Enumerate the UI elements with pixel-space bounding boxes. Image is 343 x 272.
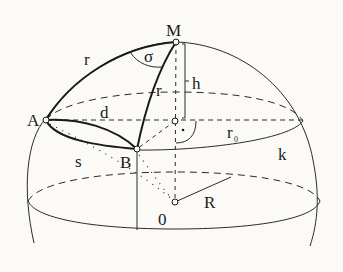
label-d: d [100,103,109,122]
circle-k-back [46,92,303,121]
right-angle-dot [182,129,185,132]
label-r0-sub: 0 [234,135,238,144]
label-O: 0 [158,210,167,229]
label-s: s [75,152,82,171]
sphere-diagram: M A B 0 r r σ h d s r 0 k R [0,0,343,272]
point-B [134,146,140,152]
dotted-chord-A [50,124,172,199]
label-r-MA: r [84,50,90,69]
arc-AB-upper [46,120,137,149]
dotted-chord-B [139,155,172,199]
label-A: A [27,111,40,130]
right-angle-arc [176,121,196,143]
label-r0: r [227,123,233,142]
label-M: M [166,21,181,40]
label-h: h [192,74,201,93]
point-A [43,117,49,123]
radius-R [175,177,231,202]
label-k: k [278,145,287,164]
label-r-MB: r [156,81,162,100]
h-bracket [182,44,185,118]
equator-back [28,172,320,201]
label-R: R [204,193,216,212]
point-O [172,199,178,205]
sphere-outline [27,42,317,246]
point-center [172,118,178,124]
label-sigma: σ [144,47,153,66]
diagram-canvas: M A B 0 r r σ h d s r 0 k R [0,0,343,272]
label-B: B [120,153,131,172]
